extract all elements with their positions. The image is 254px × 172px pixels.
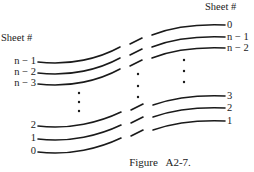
- figure-caption: Figure A2-7.: [0, 156, 254, 168]
- left-ellipsis-dot: [78, 92, 80, 94]
- right-sheet-curve-n-2: [152, 48, 225, 58]
- right-label-n-1: n − 1: [227, 31, 249, 42]
- left-ellipsis-dot: [78, 101, 80, 103]
- right-sheet-curve-1: [153, 121, 225, 130]
- left-sheet-header: Sheet #: [1, 32, 32, 43]
- right-ellipsis-dot: [183, 81, 185, 83]
- middle-dash-top-1: [130, 38, 142, 44]
- middle-ellipsis-dot: [137, 85, 139, 87]
- sheet-stack-illustration: [0, 0, 254, 172]
- left-sheet-curve-2: [38, 112, 121, 127]
- right-label-2: 2: [227, 102, 232, 113]
- middle-dash-bottom-2: [131, 117, 143, 123]
- left-sheet-curve-n-1: [38, 47, 120, 63]
- right-sheet-curve-n-1: [152, 37, 225, 47]
- left-label-n-3: n − 3: [0, 77, 36, 88]
- middle-dash-bottom-1: [131, 104, 143, 110]
- left-label-1: 1: [0, 132, 36, 143]
- left-label-n-1: n − 1: [0, 55, 36, 66]
- right-label-1: 1: [227, 115, 232, 126]
- right-ellipsis-dot: [183, 70, 185, 72]
- left-label-n-2: n − 2: [0, 66, 36, 77]
- right-sheet-curve-0: [152, 25, 225, 35]
- middle-ellipsis-dot: [137, 96, 139, 98]
- middle-dash-top-2: [130, 49, 142, 55]
- right-sheet-curve-2: [153, 108, 225, 117]
- left-ellipsis-dot: [78, 110, 80, 112]
- left-label-0: 0: [0, 145, 36, 156]
- right-sheet-curve-3: [153, 96, 225, 105]
- middle-ellipsis-dot: [137, 73, 139, 75]
- right-label-3: 3: [227, 90, 232, 101]
- right-ellipsis-dot: [183, 59, 185, 61]
- right-label-0: 0: [227, 19, 232, 30]
- left-label-2: 2: [0, 119, 36, 130]
- middle-dash-bottom-3: [131, 130, 143, 136]
- right-sheet-header: Sheet #: [205, 1, 236, 12]
- middle-dash-top-3: [130, 60, 142, 66]
- right-label-n-2: n − 2: [227, 42, 249, 53]
